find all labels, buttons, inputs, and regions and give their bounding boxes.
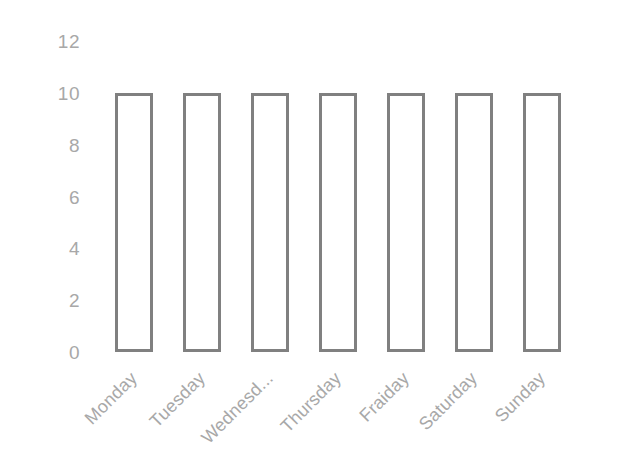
x-axis: MondayTuesdayWednesd...ThursdayFraidaySa… <box>0 0 627 462</box>
bar-chart: 024681012 MondayTuesdayWednesd...Thursda… <box>0 0 627 462</box>
